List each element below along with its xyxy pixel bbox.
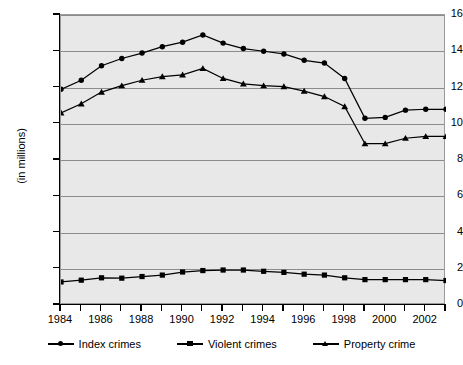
- line-chart: (in millions) 02468101214161984198619881…: [0, 0, 463, 365]
- data-point: [281, 270, 286, 275]
- data-point: [180, 39, 185, 44]
- series-violent-crimes: [61, 267, 446, 284]
- series-property-crime: [61, 65, 446, 146]
- x-tick-1995: [282, 305, 283, 311]
- x-tick-2000: [384, 305, 385, 311]
- x-axis-line: [59, 304, 446, 305]
- y-tick-label-14: 14: [417, 44, 463, 55]
- data-point: [241, 46, 246, 51]
- x-tick-1992: [221, 305, 222, 311]
- x-tick-1989: [161, 305, 162, 311]
- data-point: [139, 50, 144, 55]
- x-tick-label-1996: 1996: [283, 313, 323, 325]
- data-point: [199, 65, 206, 71]
- x-tick-label-1998: 1998: [324, 313, 364, 325]
- data-point: [160, 44, 165, 49]
- y-tick-2: [53, 267, 60, 268]
- x-tick-2002: [424, 305, 425, 311]
- chart-legend: Index crimesViolent crimesProperty crime: [0, 338, 463, 350]
- data-point: [61, 279, 64, 284]
- y-tick-label-2: 2: [417, 262, 463, 273]
- x-tick-label-1988: 1988: [121, 313, 161, 325]
- x-tick-label-1992: 1992: [202, 313, 242, 325]
- legend-item-index-crimes[interactable]: Index crimes: [48, 338, 141, 350]
- x-tick-1998: [343, 305, 344, 311]
- data-point: [322, 60, 327, 65]
- legend-item-violent-crimes[interactable]: Violent crimes: [177, 338, 277, 350]
- x-tick-label-1986: 1986: [81, 313, 121, 325]
- x-tick-1993: [242, 305, 243, 311]
- data-point: [119, 56, 124, 61]
- data-point: [281, 51, 286, 56]
- data-point: [423, 277, 428, 282]
- x-tick-2001: [404, 305, 405, 311]
- data-point: [200, 268, 205, 273]
- data-point: [302, 272, 307, 277]
- data-point: [301, 58, 306, 63]
- data-point: [61, 87, 64, 92]
- x-tick-label-2002: 2002: [405, 313, 445, 325]
- x-tick-1987: [120, 305, 121, 311]
- y-tick-14: [53, 50, 60, 51]
- legend-marker-triangle-icon: [313, 338, 339, 350]
- y-tick-label-12: 12: [417, 81, 463, 92]
- data-point: [160, 272, 165, 277]
- data-point: [78, 101, 85, 107]
- x-tick-1999: [363, 305, 364, 311]
- data-point: [443, 107, 446, 112]
- x-tick-label-1984: 1984: [40, 313, 80, 325]
- x-tick-2003: [444, 305, 445, 311]
- x-tick-1996: [303, 305, 304, 311]
- y-tick-label-6: 6: [417, 189, 463, 200]
- data-point: [99, 63, 104, 68]
- x-tick-label-2000: 2000: [364, 313, 404, 325]
- legend-label: Violent crimes: [208, 338, 277, 350]
- y-tick-16: [53, 13, 60, 14]
- plot-inner: [61, 15, 444, 303]
- x-tick-1997: [323, 305, 324, 311]
- x-tick-1994: [262, 305, 263, 311]
- y-tick-12: [53, 86, 60, 87]
- data-point: [261, 49, 266, 54]
- legend-item-property-crime[interactable]: Property crime: [313, 338, 416, 350]
- x-tick-1986: [100, 305, 101, 311]
- series-index-crimes: [61, 32, 446, 121]
- y-tick-10: [53, 122, 60, 123]
- data-point: [119, 276, 124, 281]
- data-point: [443, 278, 446, 283]
- data-point: [200, 32, 205, 37]
- x-tick-1991: [201, 305, 202, 311]
- legend-label: Index crimes: [79, 338, 141, 350]
- data-point: [261, 269, 266, 274]
- legend-marker-circle-icon: [48, 338, 74, 350]
- data-point: [362, 277, 367, 282]
- series-line: [61, 68, 446, 143]
- legend-label: Property crime: [344, 338, 416, 350]
- data-point: [342, 76, 347, 81]
- series-layer: [61, 15, 446, 305]
- series-line: [61, 270, 446, 282]
- data-point: [423, 107, 428, 112]
- data-point: [79, 278, 84, 283]
- data-point: [362, 116, 367, 121]
- x-tick-1990: [181, 305, 182, 311]
- data-point: [139, 274, 144, 279]
- y-axis-title: (in millions): [15, 111, 27, 201]
- series-line: [61, 35, 446, 118]
- y-tick-8: [53, 158, 60, 159]
- data-point: [99, 275, 104, 280]
- x-tick-1985: [80, 305, 81, 311]
- data-point: [342, 275, 347, 280]
- data-point: [220, 75, 227, 81]
- data-point: [220, 40, 225, 45]
- y-tick-label-10: 10: [417, 117, 463, 128]
- data-point: [180, 269, 185, 274]
- data-point: [383, 115, 388, 120]
- legend-marker-square-icon: [177, 338, 203, 350]
- y-tick-label-4: 4: [417, 226, 463, 237]
- y-tick-4: [53, 231, 60, 232]
- data-point: [403, 277, 408, 282]
- plot-area: [60, 14, 445, 304]
- x-tick-1988: [140, 305, 141, 311]
- data-point: [322, 272, 327, 277]
